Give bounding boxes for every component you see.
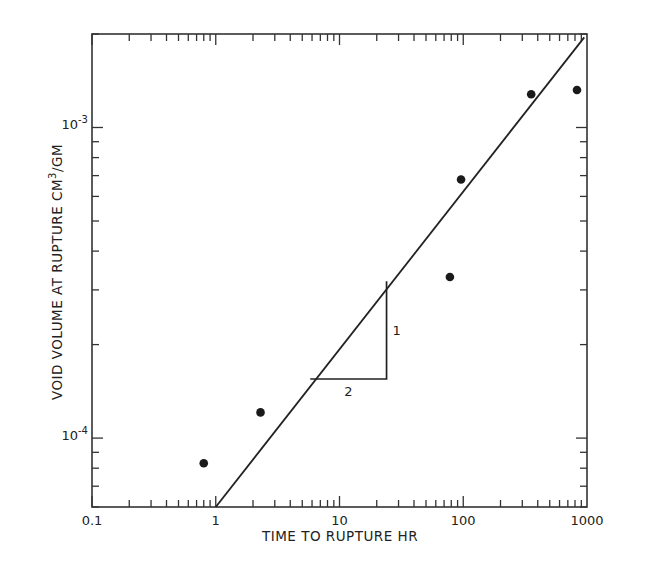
y-tick-label: 10-4 [61, 425, 88, 443]
y-tick-label: 10-3 [61, 114, 88, 132]
y-axis-title-sup: 3 [47, 172, 58, 179]
x-tick-labels: 0.11101001000 [82, 513, 604, 528]
fit-line [216, 37, 584, 507]
x-axis-ticks [92, 34, 581, 507]
data-point [446, 273, 455, 282]
y-axis-title: VOID VOLUME AT RUPTURE CM3/GM [47, 144, 65, 400]
fit-line-segment [216, 37, 584, 507]
x-tick-label: 10 [331, 513, 348, 528]
data-point [199, 459, 208, 468]
x-tick-label: 1000 [570, 513, 603, 528]
chart: 21 0.11101001000 10-410-3 TIME TO RUPTUR… [0, 0, 647, 581]
plot-border [92, 34, 587, 507]
triangle-legs [310, 281, 386, 379]
x-tick-label: 100 [451, 513, 476, 528]
y-axis-title-unit: /GM [49, 144, 65, 172]
data-points [199, 86, 581, 468]
data-point [457, 175, 466, 184]
y-axis-ticks [92, 34, 587, 507]
data-point [573, 86, 582, 95]
x-tick-label: 1 [212, 513, 220, 528]
x-axis-title: TIME TO RUPTURE HR [261, 528, 418, 544]
run-label: 2 [344, 384, 352, 399]
x-tick-label: 0.1 [82, 513, 103, 528]
rise-label: 1 [392, 323, 400, 338]
y-axis-title-main: VOID VOLUME AT RUPTURE CM [49, 179, 65, 400]
data-point [256, 408, 265, 417]
y-tick-labels: 10-410-3 [61, 114, 88, 443]
plot-frame [92, 34, 587, 507]
data-point [527, 90, 536, 99]
slope-triangle: 21 [310, 281, 400, 399]
